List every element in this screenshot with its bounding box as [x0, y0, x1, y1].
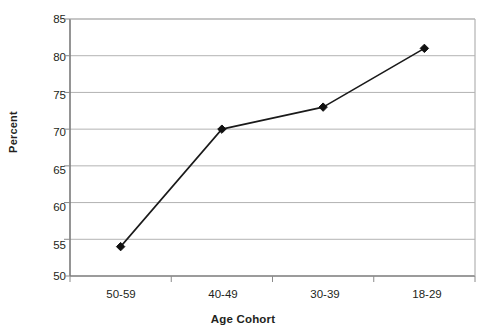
- data-point-30-39: [319, 103, 327, 111]
- data-series-line: [121, 48, 425, 246]
- x-axis-ticks: [70, 276, 475, 282]
- plot-frame: [70, 19, 475, 276]
- line-chart: Percent 85 80 75 70 65 60 55 50 50-59 40…: [0, 0, 486, 334]
- data-point-18-29: [420, 44, 428, 52]
- y-axis-ticks: [64, 19, 70, 276]
- gridlines: [70, 19, 475, 239]
- data-point-markers: [116, 44, 428, 251]
- plot-area: [0, 0, 486, 334]
